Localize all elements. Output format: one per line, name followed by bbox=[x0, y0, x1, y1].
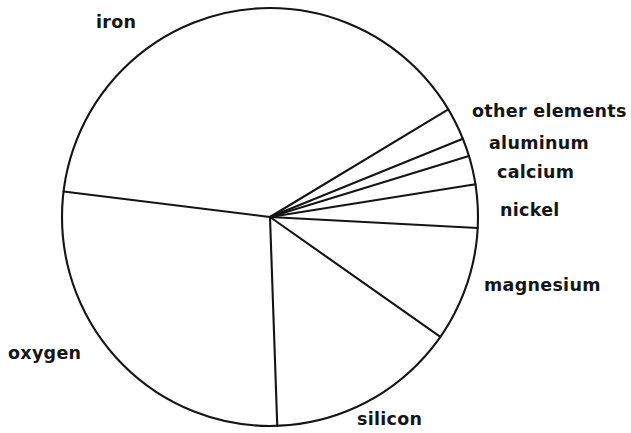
pie-label-silicon: silicon bbox=[357, 411, 422, 429]
pie-chart: iron other elements aluminum calcium nic… bbox=[0, 0, 631, 433]
pie-label-other-elements: other elements bbox=[472, 103, 627, 121]
pie-label-calcium: calcium bbox=[497, 164, 574, 182]
pie-label-iron: iron bbox=[96, 14, 136, 32]
pie-label-nickel: nickel bbox=[500, 202, 560, 220]
pie-label-magnesium: magnesium bbox=[484, 277, 601, 295]
pie-label-aluminum: aluminum bbox=[489, 135, 589, 153]
pie-label-oxygen: oxygen bbox=[8, 345, 81, 363]
